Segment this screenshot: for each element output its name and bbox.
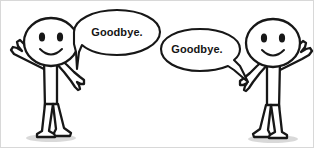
- right-figure-left-eye: [279, 33, 285, 42]
- left-figure-torso: [44, 60, 57, 108]
- left-figure-head: [24, 18, 78, 66]
- right-figure-right-leg: [253, 105, 271, 137]
- right-speech-bubble-body: [161, 29, 248, 82]
- left-figure-right-eye: [57, 32, 63, 41]
- left-speech-bubble[interactable]: Goodbye.: [74, 10, 160, 69]
- left-figure-left-eye: [39, 32, 45, 41]
- right-speech-bubble-text: Goodbye.: [171, 43, 223, 55]
- right-figure-head: [246, 19, 300, 67]
- left-figure-right-leg: [53, 104, 71, 136]
- right-stick-figure: [240, 19, 312, 138]
- right-figure-right-eye: [261, 33, 267, 42]
- right-speech-bubble[interactable]: Goodbye.: [161, 29, 248, 82]
- illustration-canvas: Goodbye. Goodbye.: [0, 0, 314, 148]
- right-figure-torso: [267, 61, 280, 109]
- scene-svg: Goodbye. Goodbye.: [0, 0, 314, 148]
- left-speech-bubble-text: Goodbye.: [91, 26, 143, 38]
- left-speech-bubble-body: [74, 10, 160, 69]
